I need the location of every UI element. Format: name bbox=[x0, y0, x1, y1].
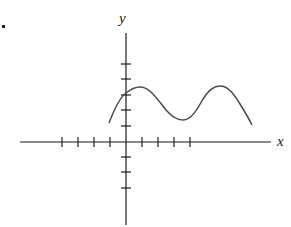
function-curve bbox=[109, 86, 252, 125]
graph-canvas: y x bbox=[0, 0, 291, 227]
bullet-marker bbox=[2, 25, 5, 28]
y-axis-label: y bbox=[117, 10, 126, 26]
x-axis-label: x bbox=[276, 133, 284, 149]
